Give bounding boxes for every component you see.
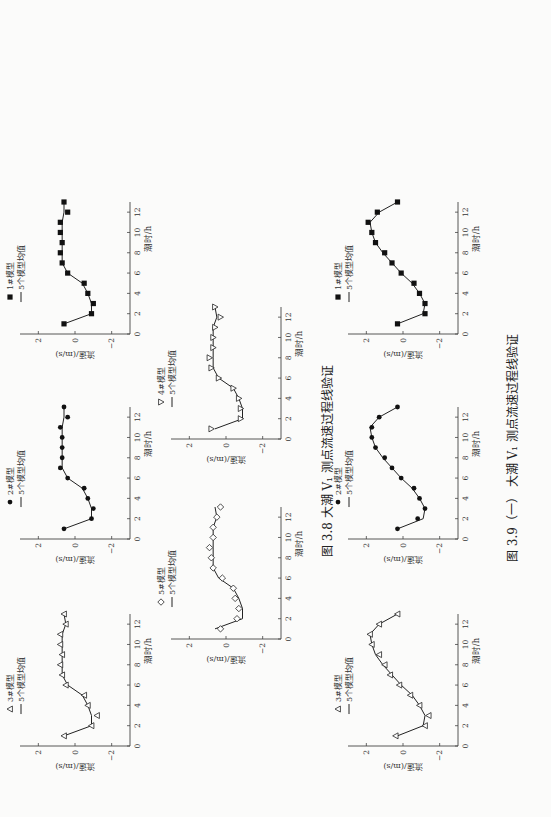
figure-3-8-caption: 图 3.8 大潮 V₁ 测点流速过程线验证: [318, 365, 335, 557]
circle-marker: [82, 486, 87, 491]
square-marker: [58, 250, 63, 255]
x-axis-label: 潮时/h: [143, 430, 153, 457]
rotated-book-page: 02468101220−2潮时/h流速/(m/s)1#模型5个模型均值 0246…: [0, 0, 551, 817]
diamond-marker: [230, 585, 236, 591]
square-marker: [399, 270, 404, 275]
legend-model: 2#模型: [5, 467, 15, 495]
y-axis-label: 流速/(m/s): [383, 350, 422, 360]
circle-marker: [417, 496, 422, 501]
diamond-marker: [236, 605, 242, 611]
legend-mean: 5个模型均值: [16, 450, 26, 495]
legend-model: 1#模型: [333, 262, 343, 290]
y-tick-label: −2: [107, 543, 116, 554]
x-tick-label: 4: [461, 703, 470, 708]
square-marker: [60, 240, 65, 245]
x-tick-label: 8: [133, 455, 142, 460]
legend: 1#模型5个模型均值: [5, 245, 26, 302]
y-tick-label: −2: [107, 750, 116, 761]
diamond-marker: [210, 524, 216, 530]
x-tick-label: 0: [284, 436, 293, 441]
x-tick-label: 0: [133, 331, 142, 336]
circle-marker: [62, 405, 67, 410]
y-tick-label: 0: [399, 338, 408, 343]
square-marker: [61, 199, 66, 204]
x-tick-label: 6: [284, 375, 293, 380]
square-marker: [65, 270, 70, 275]
diamond-marker: [217, 626, 223, 632]
diamond-marker: [210, 534, 216, 540]
plot-area: 02468101220−2潮时/h流速/(m/s)3#模型5个模型均值: [5, 611, 153, 772]
circle-marker: [373, 445, 378, 450]
x-tick-label: 4: [133, 496, 142, 501]
x-tick-label: 6: [461, 270, 470, 275]
triangle-down-marker: [218, 314, 223, 320]
square-marker: [65, 210, 70, 215]
x-tick-label: 0: [461, 331, 470, 336]
circle-marker: [65, 415, 70, 420]
plot-area: 02468101220−2潮时/h流速/(m/s)2#模型5个模型均值: [333, 405, 481, 565]
circle-marker: [60, 455, 65, 460]
circle-marker: [58, 425, 63, 430]
x-tick-label: 2: [133, 311, 142, 316]
x-axis-label: 潮时/h: [143, 637, 153, 664]
y-tick-label: 2: [34, 750, 43, 755]
x-axis-label: 潮时/h: [471, 430, 481, 457]
y-tick-label: −2: [435, 338, 444, 349]
circle-marker: [399, 476, 404, 481]
legend: 2#模型5个模型均值: [333, 450, 354, 507]
x-tick-label: 0: [284, 636, 293, 641]
x-tick-label: 8: [133, 662, 142, 667]
circle-marker: [423, 506, 428, 511]
x-tick-label: 10: [461, 432, 470, 442]
y-tick-label: −2: [258, 643, 267, 654]
triangle-marker: [85, 702, 90, 708]
square-marker: [82, 281, 87, 286]
plot-area: 02468101220−2潮时/h流速/(m/s)3#模型5个模型均值: [333, 611, 481, 772]
legend-mean: 5个模型均值: [344, 245, 354, 290]
x-tick-label: 2: [284, 616, 293, 621]
triangle-marker: [57, 641, 62, 647]
y-tick-label: 2: [362, 543, 371, 548]
triangle-marker: [417, 702, 422, 708]
plot-area: 02468101220−2潮时/h流速/(m/s)2#模型5个模型均值: [5, 405, 153, 565]
circle-marker: [395, 526, 400, 531]
diamond-marker: [219, 575, 225, 581]
triangle-down-marker: [209, 426, 214, 432]
legend-model: 3#模型: [5, 674, 15, 702]
triangle-marker: [367, 631, 372, 637]
triangle-marker: [61, 733, 66, 739]
y-tick-label: −2: [258, 443, 267, 454]
diamond-marker: [234, 615, 240, 621]
x-tick-label: 12: [461, 412, 470, 422]
diamond-marker: [206, 544, 212, 550]
x-axis-label: 潮时/h: [471, 637, 481, 664]
legend-mean: 5个模型均值: [167, 550, 177, 595]
x-tick-label: 4: [461, 496, 470, 501]
x-tick-label: 6: [133, 475, 142, 480]
x-tick-label: 8: [461, 455, 470, 460]
circle-marker: [62, 526, 67, 531]
square-marker: [395, 199, 400, 204]
x-tick-label: 0: [461, 536, 470, 541]
diamond-marker: [217, 504, 223, 510]
x-tick-label: 2: [284, 416, 293, 421]
triangle-down-marker: [231, 385, 236, 391]
chart-fig39-model3: 02468101220−2潮时/h流速/(m/s)3#模型5个模型均值: [340, 584, 494, 774]
legend: 3#模型5个模型均值: [333, 657, 354, 714]
chart-fig38-model1: 02468101220−2潮时/h流速/(m/s)1#模型5个模型均值: [12, 172, 166, 362]
diamond-marker: [214, 514, 220, 520]
y-axis-label: 流速/(m/s): [55, 555, 94, 565]
chart-fig38-model5: 02468101220−2潮时/h流速/(m/s)5#模型5个模型均值: [163, 477, 317, 667]
triangle-down-marker: [213, 324, 218, 330]
plot-area: 02468101220−2潮时/h流速/(m/s)1#模型5个模型均值: [333, 199, 481, 360]
circle-marker: [377, 415, 382, 420]
x-tick-label: 8: [284, 555, 293, 560]
circle-marker: [369, 435, 374, 440]
x-tick-label: 12: [133, 207, 142, 217]
square-marker: [60, 260, 65, 265]
x-axis-label: 潮时/h: [143, 225, 153, 252]
y-tick-label: 2: [362, 750, 371, 755]
x-tick-label: 6: [461, 682, 470, 687]
x-tick-label: 2: [461, 311, 470, 316]
legend-model: 3#模型: [333, 674, 343, 702]
